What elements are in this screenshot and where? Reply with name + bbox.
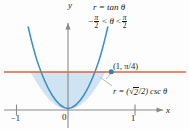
polar-curve-figure: y x −1 0 1 r = tan θ −π2 < θ <π2 (1, π/4… (0, 0, 189, 129)
y-axis-arrow (65, 23, 70, 30)
y-axis-label: y (68, 1, 72, 10)
inequality-second-operator: < (116, 16, 121, 26)
csc-equation-label: r = (√2/2) csc θ (113, 86, 167, 96)
left-fraction-denominator: 2 (94, 22, 100, 30)
csc-equation-prefix: r = ( (113, 86, 129, 96)
tan-equation-label: r = tan θ (93, 3, 125, 12)
intersection-point-label: (1, π/4) (113, 62, 138, 71)
right-fraction-denominator: 2 (122, 22, 128, 30)
csc-equation-radicand: 2 (133, 87, 138, 97)
inequality-first-operator: < (102, 16, 107, 26)
x-tick-label-one: 1 (131, 114, 135, 123)
x-tick-label-zero: 0 (62, 113, 67, 122)
csc-equation-suffix: /2) csc θ (139, 86, 168, 96)
x-axis-label: x (166, 106, 170, 115)
x-axis-arrow (157, 107, 164, 112)
left-pi-over-two-fraction: π2 (94, 14, 100, 30)
theta-inequality-label: −π2 < θ <π2 (88, 14, 128, 30)
x-tick-label-neg1: −1 (11, 114, 20, 123)
right-pi-over-two-fraction: π2 (122, 14, 128, 30)
inequality-minus-sign: − (88, 16, 93, 26)
inequality-theta-symbol: θ (109, 16, 113, 26)
